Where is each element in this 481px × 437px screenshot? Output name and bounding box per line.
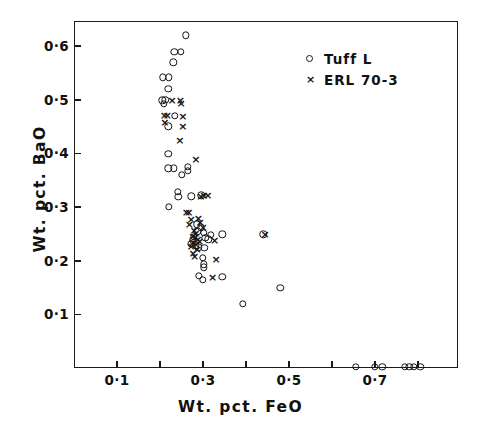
y-tick-5 bbox=[74, 45, 81, 47]
y-tick-1 bbox=[74, 260, 81, 262]
x-tick-1 bbox=[159, 361, 161, 368]
x-tick-6 bbox=[374, 361, 376, 368]
legend-entry-0: Tuff L bbox=[306, 48, 399, 69]
circle-marker-icon bbox=[306, 55, 324, 62]
legend-label: ERL 70-3 bbox=[324, 72, 399, 88]
x-axis-title: Wt. pct. FeO bbox=[0, 398, 481, 416]
legend-marker-glyph: × bbox=[306, 74, 315, 85]
y-tick-0 bbox=[74, 314, 81, 316]
cross-marker-icon: × bbox=[306, 74, 324, 85]
x-tick-2 bbox=[202, 361, 204, 368]
x-tick-label-0: 0·1 bbox=[104, 372, 129, 388]
legend-marker-glyph bbox=[306, 55, 313, 62]
legend: Tuff L×ERL 70-3 bbox=[306, 48, 399, 90]
x-tick-label-2: 0·3 bbox=[190, 372, 215, 388]
scatter-plot-figure: 0·10·30·50·7 0·10·20·30·40·50·6 ××××××××… bbox=[0, 0, 481, 437]
y-tick-label-5: 0·6 bbox=[44, 38, 69, 54]
legend-label: Tuff L bbox=[324, 51, 372, 67]
legend-entry-1: ×ERL 70-3 bbox=[306, 69, 399, 90]
x-tick-0 bbox=[116, 361, 118, 368]
plot-frame bbox=[74, 21, 458, 368]
y-tick-2 bbox=[74, 206, 81, 208]
x-tick-label-6: 0·7 bbox=[362, 372, 387, 388]
y-tick-3 bbox=[74, 153, 81, 155]
x-tick-7 bbox=[417, 361, 419, 368]
x-tick-5 bbox=[331, 361, 333, 368]
x-tick-3 bbox=[245, 361, 247, 368]
x-tick-label-4: 0·5 bbox=[276, 372, 301, 388]
y-axis-title: Wt. pct. BaO bbox=[31, 59, 49, 319]
y-tick-4 bbox=[74, 99, 81, 101]
x-tick-4 bbox=[288, 361, 290, 368]
